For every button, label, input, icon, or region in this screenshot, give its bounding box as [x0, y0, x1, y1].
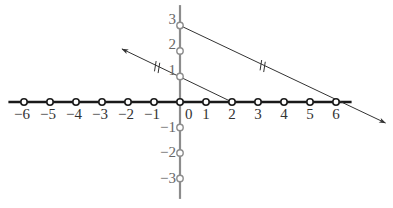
parallel-tick [154, 61, 156, 71]
y-tick-point [177, 22, 183, 28]
parallel-tick [260, 60, 262, 70]
x-tick-point [73, 99, 79, 105]
x-tick-label: 5 [306, 106, 314, 122]
parallel-tick [158, 63, 160, 73]
x-tick-label: 1 [202, 106, 210, 122]
x-tick-label: −6 [14, 106, 30, 122]
x-tick-point [177, 99, 183, 105]
parallel-mark-icon [154, 61, 159, 73]
x-tick-label: −5 [40, 106, 56, 122]
y-tick-label: −1 [160, 119, 176, 135]
x-tick-label: −2 [118, 106, 134, 122]
x-tick-label: −1 [144, 106, 160, 122]
x-tick-point [229, 99, 235, 105]
x-tick-point [255, 99, 261, 105]
x-tick-point [47, 99, 53, 105]
x-tick-point [281, 99, 287, 105]
x-tick-point [125, 99, 131, 105]
x-tick-label: 2 [228, 106, 236, 122]
x-tick-point [203, 99, 209, 105]
x-tick-point [151, 99, 157, 105]
y-tick-point [177, 150, 183, 156]
x-tick-point [307, 99, 313, 105]
y-tick-label: 2 [169, 36, 177, 52]
y-tick-point [177, 124, 183, 130]
parallel-mark-icon [260, 60, 265, 72]
x-tick-point [99, 99, 105, 105]
parallel-tick [264, 62, 266, 72]
x-tick-label: 3 [254, 106, 262, 122]
x-tick-label: 4 [280, 106, 288, 122]
x-tick-point [21, 99, 27, 105]
x-tick-label: 6 [332, 106, 340, 122]
x-tick-label: 0 [185, 106, 193, 122]
coordinate-plane-diagram: −6−5−4−3−2−10123456321−1−2−3 [0, 0, 393, 208]
tick-labels: −6−5−4−3−2−10123456321−1−2−3 [14, 11, 340, 186]
y-tick-label: −2 [160, 144, 176, 160]
y-tick-label: −3 [160, 170, 176, 186]
x-tick-label: −3 [92, 106, 108, 122]
y-tick-point [177, 175, 183, 181]
x-tick-point [333, 99, 339, 105]
y-tick-point [177, 48, 183, 54]
y-tick-point [177, 73, 183, 79]
x-tick-label: −4 [66, 106, 82, 122]
y-tick-label: 3 [169, 11, 177, 27]
y-tick-label: 1 [169, 62, 177, 78]
